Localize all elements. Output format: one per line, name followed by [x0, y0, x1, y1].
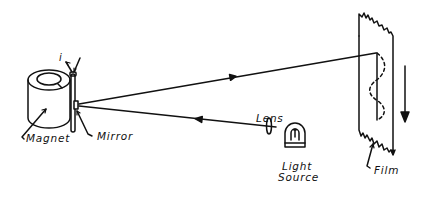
light-source-label-line2: Source — [278, 172, 316, 183]
light-source-icon — [285, 123, 305, 147]
reflected-beam — [79, 53, 376, 104]
magnet-label: Magnet — [26, 133, 70, 144]
film-leader — [367, 144, 373, 168]
diagram-canvas — [0, 0, 421, 197]
down-arrow-icon — [401, 112, 409, 122]
mirror-icon — [74, 101, 78, 109]
magnet-icon — [28, 70, 70, 128]
mirror-label: Mirror — [97, 131, 133, 142]
film-icon — [359, 13, 395, 155]
film-label: Film — [374, 165, 399, 176]
reflected-beam-arrow-icon — [230, 73, 237, 80]
mirror-leader — [77, 111, 92, 136]
current-label: i — [59, 52, 63, 63]
lens-label: Lens — [256, 113, 284, 124]
mirror-coil-icon — [66, 58, 80, 132]
incident-beam-arrow-icon — [195, 116, 203, 123]
incident-beam — [79, 106, 276, 127]
